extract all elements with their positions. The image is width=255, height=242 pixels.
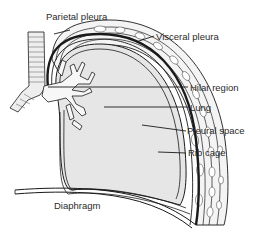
label-visceral-pleura: Visceral pleura bbox=[156, 31, 219, 42]
label-lung: Lung bbox=[190, 102, 211, 113]
label-diaphragm: Diaphragm bbox=[54, 200, 101, 211]
trachea bbox=[10, 32, 45, 112]
label-pleural-space: Pleural space bbox=[187, 125, 245, 136]
label-parietal-pleura: Parietal pleura bbox=[46, 11, 108, 22]
pleura-diagram: Parietal pleura Visceral pleura Hilar re… bbox=[0, 0, 255, 242]
label-rib-cage: Rib cage bbox=[188, 147, 226, 158]
label-hilar-region: Hilar region bbox=[190, 82, 239, 93]
